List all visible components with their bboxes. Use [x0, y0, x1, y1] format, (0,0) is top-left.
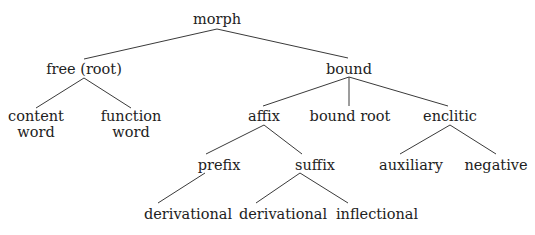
node-label: negative [464, 157, 527, 173]
node-function-word: function word [101, 108, 162, 140]
edge-bound-affix [263, 77, 349, 106]
node-label: auxiliary [379, 157, 443, 173]
node-suffix-derivational: derivational [239, 206, 327, 222]
node-bound-root: bound root [310, 108, 391, 124]
node-label: inflectional [336, 206, 418, 222]
node-content-word: content word [8, 108, 64, 140]
node-label-line1: content [8, 108, 64, 124]
node-suffix-inflectional: inflectional [336, 206, 418, 222]
node-label: derivational [144, 206, 232, 222]
node-suffix: suffix [295, 157, 335, 173]
node-label-line1: function [101, 108, 162, 124]
edge-morph-bound [217, 29, 348, 58]
node-label-line2: word [101, 124, 162, 140]
node-affix: affix [248, 108, 280, 124]
edge-suffix-derivational [256, 173, 300, 203]
node-label: enclitic [423, 108, 477, 124]
edge-free-content [36, 78, 84, 108]
edge-enclitic-negative [450, 125, 496, 154]
edge-prefix-derivational [158, 173, 205, 203]
node-prefix: prefix [198, 157, 241, 173]
node-label: free (root) [46, 61, 122, 77]
node-enclitic: enclitic [423, 108, 477, 124]
node-label-line2: word [8, 124, 64, 140]
node-free-root: free (root) [46, 61, 122, 77]
node-label: affix [248, 108, 280, 124]
node-label: bound root [310, 108, 391, 124]
node-label: morph [193, 11, 241, 27]
edge-affix-prefix [206, 125, 264, 154]
edge-suffix-inflectional [300, 173, 348, 203]
edge-bound-enclitic [349, 77, 448, 106]
node-prefix-derivational: derivational [144, 206, 232, 222]
edge-free-function [84, 78, 131, 108]
node-label: suffix [295, 157, 335, 173]
node-auxiliary: auxiliary [379, 157, 443, 173]
node-bound: bound [326, 61, 372, 77]
edge-enclitic-auxiliary [400, 125, 450, 154]
node-label: derivational [239, 206, 327, 222]
node-morph: morph [193, 11, 241, 27]
node-label: bound [326, 61, 372, 77]
edge-affix-suffix [264, 125, 302, 154]
node-label: prefix [198, 157, 241, 173]
edge-morph-free [84, 29, 217, 59]
node-negative: negative [464, 157, 527, 173]
